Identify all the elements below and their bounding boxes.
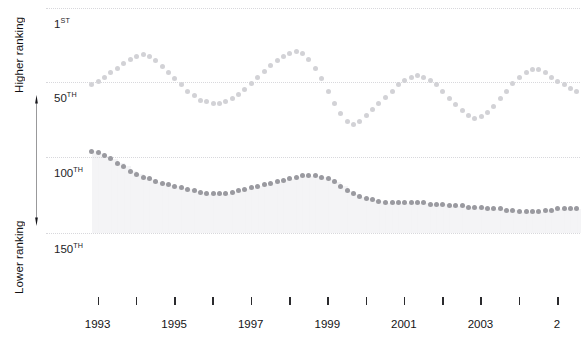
x-tick-label-2003: 2003 bbox=[468, 318, 494, 330]
data-point bbox=[326, 176, 331, 181]
x-tick-1996 bbox=[212, 297, 214, 305]
data-point bbox=[89, 149, 94, 154]
data-point bbox=[185, 187, 190, 192]
data-point bbox=[134, 172, 139, 177]
data-point bbox=[345, 188, 350, 193]
y-tick-suffix: TH bbox=[73, 241, 83, 250]
data-point bbox=[357, 194, 362, 199]
x-tick-label-1999: 1999 bbox=[315, 318, 341, 330]
data-point bbox=[440, 202, 445, 207]
data-point bbox=[510, 208, 515, 213]
data-point bbox=[453, 203, 458, 208]
y-tick-label-100: 100TH bbox=[54, 165, 83, 179]
data-point bbox=[568, 206, 573, 211]
data-point bbox=[530, 209, 535, 214]
data-point bbox=[421, 200, 426, 205]
data-point bbox=[409, 200, 414, 205]
data-point bbox=[179, 185, 184, 190]
data-point bbox=[198, 190, 203, 195]
data-point bbox=[160, 181, 165, 186]
data-point bbox=[294, 175, 299, 180]
x-tick-2003 bbox=[480, 297, 482, 305]
data-point bbox=[504, 208, 509, 213]
ranking-direction-arrow-icon bbox=[35, 95, 38, 226]
y-tick-value: 50 bbox=[54, 92, 67, 104]
x-tick-2001 bbox=[404, 297, 406, 305]
series-lower-series bbox=[88, 8, 580, 248]
x-tick-1997 bbox=[251, 297, 253, 305]
data-point bbox=[376, 199, 381, 204]
data-point bbox=[102, 153, 107, 158]
data-point bbox=[428, 202, 433, 207]
data-point bbox=[319, 175, 324, 180]
data-point bbox=[479, 205, 484, 210]
data-point bbox=[313, 173, 318, 178]
x-tick-label-1997: 1997 bbox=[238, 318, 264, 330]
data-point bbox=[491, 206, 496, 211]
data-point bbox=[147, 176, 152, 181]
data-point bbox=[172, 184, 177, 189]
y-tick-value: 150 bbox=[54, 243, 73, 255]
lower-ranking-label: Lower ranking bbox=[13, 228, 25, 294]
data-point bbox=[498, 206, 503, 211]
plot-area: 1ST50TH100TH150TH bbox=[88, 8, 580, 248]
data-point bbox=[543, 208, 548, 213]
higher-ranking-label: Higher ranking bbox=[13, 27, 25, 93]
data-point bbox=[300, 173, 305, 178]
data-point bbox=[268, 181, 273, 186]
data-point bbox=[415, 200, 420, 205]
x-tick-1994 bbox=[136, 297, 138, 305]
y-tick-value: 100 bbox=[54, 167, 73, 179]
data-point bbox=[236, 188, 241, 193]
data-point bbox=[524, 209, 529, 214]
data-point bbox=[217, 191, 222, 196]
data-point bbox=[96, 150, 101, 155]
data-point bbox=[121, 164, 126, 169]
y-tick-label-150: 150TH bbox=[54, 241, 83, 255]
x-tick-label-1993: 1993 bbox=[85, 318, 111, 330]
data-point bbox=[332, 179, 337, 184]
data-point bbox=[338, 184, 343, 189]
x-tick-2005 bbox=[557, 297, 559, 305]
data-point bbox=[275, 179, 280, 184]
data-point bbox=[230, 190, 235, 195]
x-tick-2002 bbox=[442, 297, 444, 305]
data-point bbox=[108, 156, 113, 161]
data-point bbox=[383, 200, 388, 205]
data-point bbox=[364, 196, 369, 201]
data-point bbox=[434, 202, 439, 207]
x-tick-2004 bbox=[519, 297, 521, 305]
data-point bbox=[204, 191, 209, 196]
data-point bbox=[128, 169, 133, 174]
data-point bbox=[281, 178, 286, 183]
data-point bbox=[472, 205, 477, 210]
data-point bbox=[115, 161, 120, 166]
x-tick-1999 bbox=[327, 297, 329, 305]
data-point bbox=[211, 191, 216, 196]
data-point bbox=[287, 176, 292, 181]
data-point bbox=[370, 197, 375, 202]
y-tick-label-1: 1ST bbox=[54, 16, 70, 30]
data-point bbox=[396, 200, 401, 205]
data-point bbox=[141, 175, 146, 180]
data-point bbox=[485, 206, 490, 211]
data-point bbox=[536, 209, 541, 214]
data-point bbox=[390, 200, 395, 205]
data-point bbox=[262, 182, 267, 187]
y-tick-suffix: ST bbox=[60, 16, 70, 25]
data-point bbox=[562, 206, 567, 211]
data-point bbox=[555, 206, 560, 211]
data-point bbox=[166, 182, 171, 187]
data-point bbox=[306, 173, 311, 178]
x-tick-label-2001: 2001 bbox=[391, 318, 417, 330]
data-point bbox=[460, 203, 465, 208]
data-point bbox=[153, 179, 158, 184]
y-tick-suffix: TH bbox=[73, 165, 83, 174]
x-tick-1998 bbox=[289, 297, 291, 305]
data-point bbox=[255, 184, 260, 189]
data-point bbox=[466, 205, 471, 210]
data-point bbox=[192, 188, 197, 193]
y-tick-label-50: 50TH bbox=[54, 90, 77, 104]
data-point bbox=[549, 208, 554, 213]
